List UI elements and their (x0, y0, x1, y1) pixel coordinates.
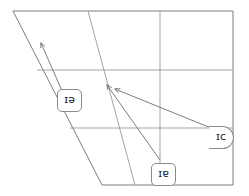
gridline-slanted-interior (88, 11, 135, 185)
vowel-quadrilateral-diagram: eɪ aɪ ɔɪ (0, 0, 249, 196)
diphthong-label-ai: aɪ (151, 163, 176, 186)
diagram-canvas (0, 0, 249, 196)
quadrilateral-outline (13, 11, 233, 185)
diphthong-arrow-oi (115, 89, 211, 128)
diphthong-label-oi: ɔɪ (209, 126, 234, 149)
diphthong-label-ei: eɪ (57, 89, 82, 112)
